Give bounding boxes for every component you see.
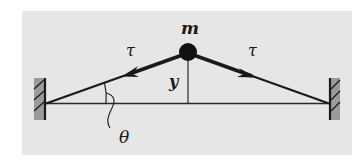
tension-left-label: τ bbox=[126, 41, 136, 60]
angle-label: θ bbox=[119, 127, 129, 147]
displacement-label: y bbox=[168, 72, 180, 91]
string-tension-diagram: m τ τ y θ bbox=[0, 0, 363, 162]
mass-ball bbox=[179, 43, 197, 61]
mass-label: m bbox=[181, 18, 199, 38]
right-wall bbox=[329, 78, 340, 120]
tension-right-label: τ bbox=[248, 41, 258, 60]
left-wall bbox=[34, 78, 45, 120]
